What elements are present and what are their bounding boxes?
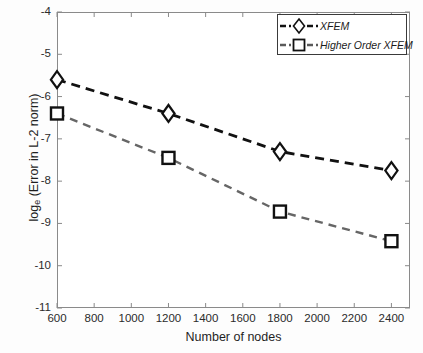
- legend: XFEM Higher Order XFEM: [277, 14, 407, 55]
- y-axis-title: loge (Error in L-2 norm): [27, 48, 42, 268]
- x-axis-title: Number of nodes: [57, 330, 410, 344]
- data-point-marker-diamond: [162, 105, 174, 122]
- data-point-marker-square: [385, 235, 397, 247]
- x-tick-label: 2200: [334, 313, 374, 324]
- data-series-group: [51, 71, 398, 247]
- data-point-marker-square: [51, 107, 63, 119]
- series-line: [57, 80, 391, 171]
- legend-label-xfem: XFEM: [320, 21, 349, 32]
- data-point-marker-square: [274, 206, 286, 218]
- legend-item-xfem: XFEM: [278, 16, 408, 36]
- x-tick-label: 800: [74, 313, 114, 324]
- chart-container: -4-5-6-7-8-9-10-11 600800100012001400160…: [0, 0, 423, 353]
- x-tick-label: 1000: [111, 313, 151, 324]
- data-point-marker-diamond: [274, 143, 286, 160]
- axis-ticks: [57, 12, 410, 308]
- data-point-marker-diamond: [385, 162, 397, 179]
- legend-label-higher-order-xfem: Higher Order XFEM: [320, 40, 413, 51]
- series-line: [57, 113, 391, 241]
- legend-item-higher-order-xfem: Higher Order XFEM: [278, 35, 408, 55]
- x-tick-label: 1400: [186, 313, 226, 324]
- x-tick-label: 600: [37, 313, 77, 324]
- x-tick-label: 1800: [260, 313, 300, 324]
- y-axis-title-base: log: [27, 205, 41, 222]
- data-point-marker-diamond: [51, 71, 63, 88]
- legend-sample-square-icon: [278, 36, 320, 54]
- y-tick-label: -4: [21, 6, 51, 17]
- x-tick-label: 2400: [371, 313, 411, 324]
- data-point-marker-square: [162, 152, 174, 164]
- x-tick-label: 1200: [148, 313, 188, 324]
- x-tick-label: 2000: [297, 313, 337, 324]
- y-axis-title-rest: (Error in L-2 norm): [27, 94, 41, 200]
- x-tick-label: 1600: [223, 313, 263, 324]
- y-axis-title-subscript: e: [32, 200, 42, 205]
- legend-sample-diamond-icon: [278, 17, 320, 35]
